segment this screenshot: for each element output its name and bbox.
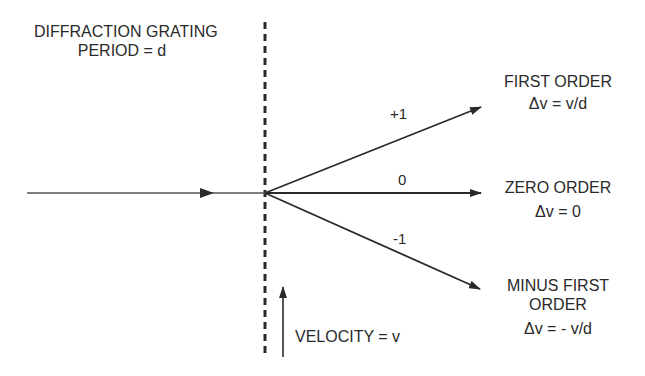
minus-first-order-beam <box>265 193 480 289</box>
zero-order-name: ZERO ORDER <box>496 178 620 197</box>
first-order-label: FIRST ORDER Δv = v/d <box>496 72 620 113</box>
beam-label-zero: 0 <box>398 170 406 189</box>
velocity-label: VELOCITY = v <box>295 327 400 346</box>
first-order-name: FIRST ORDER <box>496 72 620 91</box>
minus-first-order-shift: Δv = - v/d <box>496 319 620 338</box>
zero-order-shift: Δv = 0 <box>496 202 620 221</box>
minus-first-order-name-line1: MINUS FIRST <box>496 276 620 295</box>
zero-order-label: ZERO ORDER Δv = 0 <box>496 178 620 221</box>
grating-title-line1: DIFFRACTION GRATING <box>34 22 210 41</box>
first-order-shift: Δv = v/d <box>496 94 620 113</box>
grating-period-label: PERIOD = d <box>34 41 210 60</box>
first-order-beam <box>265 107 481 193</box>
minus-first-order-name-line2: ORDER <box>496 295 620 314</box>
grating-title: DIFFRACTION GRATING PERIOD = d <box>34 22 210 60</box>
beam-label-plus-one: +1 <box>390 104 407 123</box>
minus-first-order-label: MINUS FIRST ORDER Δv = - v/d <box>496 276 620 338</box>
beam-label-minus-one: -1 <box>393 229 406 248</box>
incident-arrowhead-icon <box>200 188 214 198</box>
